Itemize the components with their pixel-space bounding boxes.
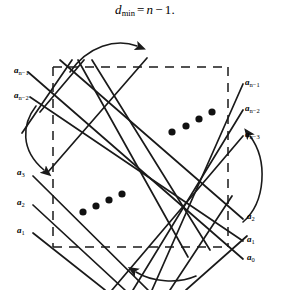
left-label-a-3: a3 xyxy=(17,168,25,179)
diagonal-down-2 xyxy=(30,97,243,241)
ellipsis-dot xyxy=(168,128,175,135)
right-curved-arrow xyxy=(243,136,262,222)
ellipsis-dot xyxy=(182,122,189,129)
ellipsis-dot xyxy=(92,202,99,209)
left-label-a-n-1: an−1 xyxy=(14,66,29,77)
diagonal-up-1 xyxy=(48,58,147,172)
ellipsis-dot xyxy=(105,196,112,203)
ellipsis-dot xyxy=(79,208,86,215)
left-label-a-2: a2 xyxy=(17,198,25,209)
right-label-a-1: a1 xyxy=(247,235,255,246)
diagonal-down-3 xyxy=(60,60,243,219)
ellipsis-dot xyxy=(195,115,202,122)
diagonal-down-7 xyxy=(33,205,125,290)
ellipsis-dot xyxy=(118,190,125,197)
right-label-a-2: a2 xyxy=(247,212,255,223)
diagonal-down-5 xyxy=(92,60,210,250)
left-label-a-1: a1 xyxy=(17,226,25,237)
ellipsis-dot xyxy=(208,108,215,115)
right-label-a-0: a0 xyxy=(247,253,255,264)
right-label-a-n-3: an−3 xyxy=(245,130,260,141)
dashed-guides xyxy=(53,67,228,247)
diagonal-down-6 xyxy=(33,176,148,290)
diagonal-up-6 xyxy=(152,84,243,290)
network-diagram xyxy=(0,0,290,290)
diagonal-up-4 xyxy=(112,136,243,290)
right-label-a-n-2: an−2 xyxy=(245,104,260,115)
ellipsis-lower-left xyxy=(79,190,125,215)
diagonal-up-3 xyxy=(40,60,84,112)
ellipsis-upper-right xyxy=(168,108,215,135)
diagonal-up-8 xyxy=(186,236,247,290)
bottom-curved-arrow xyxy=(136,272,196,281)
ascending-diagonals xyxy=(22,58,247,290)
right-label-a-n-1: an−1 xyxy=(245,78,260,89)
left-label-a-n-2: an−2 xyxy=(14,91,29,102)
